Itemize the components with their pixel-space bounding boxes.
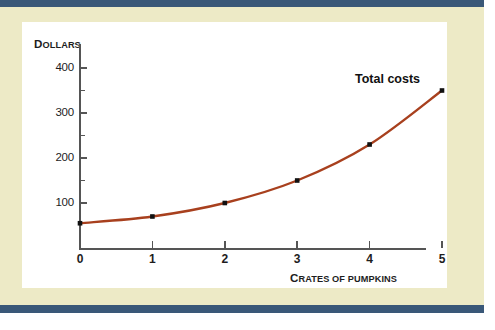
chart-card: DOLLARS CRATES OF PUMPKINS 100200300400 … [22,22,447,288]
bottom-rule [0,305,484,313]
top-rule [0,0,484,7]
series-line-total-costs [80,91,442,224]
data-point-x3 [295,178,300,183]
series-markers-total-costs [78,88,445,225]
data-point-x4 [367,142,372,147]
figure-root: DOLLARS CRATES OF PUMPKINS 100200300400 … [0,0,495,330]
data-point-x0 [78,221,83,226]
data-point-x2 [223,201,228,206]
plot-area [22,22,447,288]
data-point-x5 [440,88,445,93]
data-point-x1 [150,214,155,219]
series-annotation-total-costs: Total costs [355,72,420,86]
